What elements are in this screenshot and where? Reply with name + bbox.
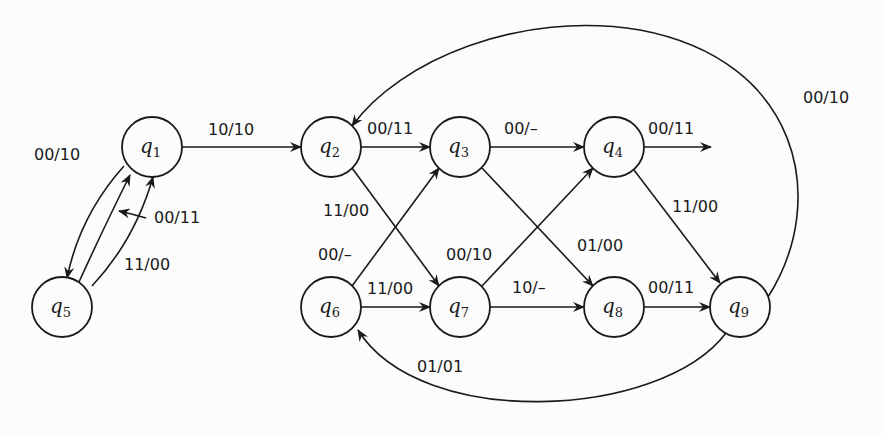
node-q4: q4 xyxy=(584,117,644,177)
edge-label-q2-q7: 11/00 xyxy=(323,201,369,220)
edge-label-q2-q3: 00/11 xyxy=(367,119,413,138)
edge-q9-q6 xyxy=(358,330,726,402)
node-q8: q8 xyxy=(584,277,644,337)
edge-q4-q9 xyxy=(634,170,720,283)
edge-q9-q2 xyxy=(352,26,798,297)
node-q1: q1 xyxy=(122,117,182,177)
node-q7: q7 xyxy=(430,277,490,337)
edge-q1-q5 xyxy=(67,166,124,278)
node-q6: q6 xyxy=(301,277,361,337)
edge-label-q5-q1-a: 00/11 xyxy=(154,208,200,227)
edge-label-q9-q6: 01/01 xyxy=(417,357,463,376)
node-q3: q3 xyxy=(430,117,490,177)
edge-label-q9-q2: 00/10 xyxy=(803,88,849,107)
edge-label-q5-q1-b: 11/00 xyxy=(124,255,170,274)
edge-label-q3-q8: 01/00 xyxy=(577,236,623,255)
edge-label-q7-q8: 10/– xyxy=(512,278,546,297)
edge-label-q6-q7: 11/00 xyxy=(367,279,413,298)
node-q2: q2 xyxy=(301,117,361,177)
edge-label-q4-q9: 11/00 xyxy=(672,197,718,216)
node-q9: q9 xyxy=(710,277,770,337)
edge-label-q1-q5: 00/10 xyxy=(34,145,80,164)
edge-label-pointer xyxy=(119,211,146,218)
state-diagram: 00/10 00/11 11/00 10/10 00/11 11/00 00/–… xyxy=(0,0,886,434)
edge-label-q3-q4: 00/– xyxy=(504,119,538,138)
nodes: q1 q2 q3 q4 q5 q6 q7 q8 xyxy=(32,117,770,337)
node-q5: q5 xyxy=(32,277,92,337)
edge-label-q4-out: 00/11 xyxy=(648,119,694,138)
edge-label-q1-q2: 10/10 xyxy=(208,120,254,139)
edge-label-q6-q3: 00/– xyxy=(318,245,352,264)
edge-label-q7-q4: 00/10 xyxy=(446,245,492,264)
edge-label-q8-q9: 00/11 xyxy=(648,278,694,297)
